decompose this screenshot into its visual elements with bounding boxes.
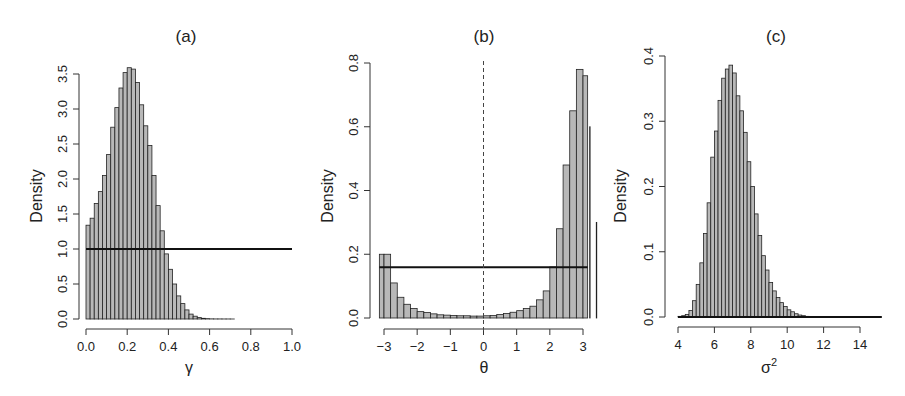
histogram-bar <box>437 315 444 318</box>
figure-canvas: (a) Density γ 0.00.20.40.60.81.0 0.00.51… <box>0 0 905 396</box>
panel-c-ylabel: Density <box>612 169 629 222</box>
histogram-bar <box>590 127 591 318</box>
histogram-bar <box>397 297 404 318</box>
histogram-bar <box>769 282 773 317</box>
panel-a-ylabel: Density <box>28 169 45 222</box>
histogram-bar <box>530 306 537 318</box>
histogram-bar <box>497 314 504 318</box>
histogram-bar <box>417 312 424 318</box>
histogram-bar <box>725 69 729 317</box>
histogram-bar <box>430 314 437 318</box>
histogram-bar <box>714 131 718 317</box>
y-tick-label: 0.4 <box>346 181 361 199</box>
histogram-bar <box>127 68 131 319</box>
x-tick-label: 0 <box>480 339 487 354</box>
histogram-bar <box>736 96 740 317</box>
histogram-bar <box>115 108 119 319</box>
histogram-bar <box>543 291 550 318</box>
x-tick-label: 3 <box>579 339 586 354</box>
panel-a: (a) Density γ 0.00.20.40.60.81.0 0.00.51… <box>28 27 301 376</box>
histogram-bar <box>450 315 457 318</box>
histogram-bar <box>510 312 517 318</box>
figure: (a) Density γ 0.00.20.40.60.81.0 0.00.51… <box>0 0 905 396</box>
histogram-bar <box>490 315 497 318</box>
histogram-bar <box>86 225 90 319</box>
histogram-bar <box>135 82 139 319</box>
y-tick-label: 0.2 <box>641 177 656 195</box>
histogram-bar <box>181 304 185 319</box>
histogram-bar <box>464 316 471 318</box>
histogram-bar <box>444 315 451 318</box>
histogram-bar <box>776 297 780 317</box>
x-tick-label: 8 <box>747 337 754 352</box>
x-tick-label: 0.6 <box>201 339 219 354</box>
histogram-bar <box>762 256 766 317</box>
histogram-bar <box>90 218 94 319</box>
x-tick-label: 12 <box>816 337 830 352</box>
panel-c-xlabel-base: σ <box>761 359 771 376</box>
histogram-bar <box>111 127 115 319</box>
histogram-bar <box>696 284 700 317</box>
histogram-bar <box>411 308 418 318</box>
x-tick-label: 10 <box>780 337 794 352</box>
histogram-bar <box>164 254 168 319</box>
histogram-bar <box>517 311 524 318</box>
histogram-bar <box>404 304 411 318</box>
histogram-bar <box>556 229 563 318</box>
histogram-bar <box>765 270 769 317</box>
histogram-bar <box>537 300 544 318</box>
histogram-bar <box>477 316 484 318</box>
histogram-bar <box>197 318 201 319</box>
histogram-bar <box>523 308 530 318</box>
y-tick-label: 0.3 <box>641 112 656 130</box>
panel-a-title: (a) <box>176 27 197 46</box>
y-tick-label: 0.4 <box>641 47 656 65</box>
panel-b-title: (b) <box>474 27 495 46</box>
x-tick-label: −2 <box>410 339 425 354</box>
y-tick-label: 3.5 <box>55 65 70 83</box>
panel-c-x-axis: 468101214 <box>674 327 867 352</box>
histogram-bar <box>751 187 755 318</box>
histogram-bar <box>722 78 726 317</box>
y-tick-label: 0.5 <box>55 275 70 293</box>
panel-c-bars <box>678 65 824 317</box>
y-tick-label: 3.0 <box>55 100 70 118</box>
y-tick-label: 0.0 <box>346 309 361 327</box>
y-tick-label: 1.5 <box>55 205 70 223</box>
histogram-bar <box>119 88 123 319</box>
histogram-bar <box>711 157 715 317</box>
histogram-bar <box>131 69 135 319</box>
histogram-bar <box>148 145 152 319</box>
histogram-bar <box>563 165 570 318</box>
y-tick-label: 2.0 <box>55 170 70 188</box>
histogram-bar <box>596 222 597 318</box>
histogram-bar <box>424 313 431 318</box>
panel-c-xlabel: σ2 <box>761 356 777 376</box>
histogram-bar <box>123 73 127 319</box>
y-tick-label: 2.5 <box>55 135 70 153</box>
histogram-bar <box>185 310 189 319</box>
histogram-bar <box>758 235 762 317</box>
y-tick-label: 0.0 <box>641 308 656 326</box>
panel-c-title: (c) <box>766 27 786 46</box>
histogram-bar <box>550 267 557 318</box>
panel-c: (c) Density σ2 468101214 0.00.10.20.30.4 <box>612 27 882 376</box>
histogram-bar <box>152 176 156 320</box>
histogram-bar <box>718 100 722 317</box>
histogram-bar <box>470 316 477 318</box>
histogram-bar <box>754 214 758 317</box>
panel-a-xlabel: γ <box>185 359 193 376</box>
y-tick-label: 0.1 <box>641 243 656 261</box>
histogram-bar <box>707 203 711 317</box>
x-tick-label: −1 <box>443 339 458 354</box>
histogram-bar <box>583 76 588 318</box>
histogram-bar <box>729 65 733 317</box>
panel-b-x-axis: −3−2−10123 <box>377 329 587 354</box>
histogram-bar <box>98 192 102 319</box>
panel-b-xlabel: θ <box>480 359 489 376</box>
panel-b-bars <box>379 69 596 318</box>
histogram-bar <box>703 233 707 317</box>
histogram-bar <box>391 283 398 318</box>
histogram-bar <box>156 206 160 319</box>
y-tick-label: 0.0 <box>55 310 70 328</box>
